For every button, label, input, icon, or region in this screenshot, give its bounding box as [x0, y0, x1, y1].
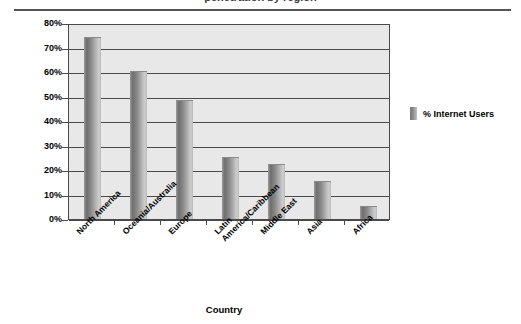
cropped-title-strip: penetration by region	[0, 0, 521, 7]
x-tick-mark	[252, 220, 253, 225]
x-tick-mark	[344, 220, 345, 225]
y-tick-label: 60%	[28, 68, 62, 77]
y-tick-label: 30%	[28, 142, 62, 151]
bar	[84, 37, 101, 219]
legend-label-internet-users: % Internet Users	[423, 109, 494, 119]
y-tick-mark	[62, 220, 68, 221]
y-tick-mark	[62, 171, 68, 172]
y-tick-label: 50%	[28, 93, 62, 102]
header-divider	[14, 9, 511, 11]
y-tick-mark	[62, 147, 68, 148]
x-tick-mark	[114, 220, 115, 225]
y-tick-label: 0%	[28, 215, 62, 224]
y-tick-label: 80%	[28, 19, 62, 28]
legend-swatch-internet-users	[410, 107, 417, 120]
y-tick-mark	[62, 24, 68, 25]
x-axis-title: Country	[0, 304, 448, 315]
chart-title-cropped: penetration by region	[0, 0, 521, 3]
y-tick-mark	[62, 196, 68, 197]
y-tick-mark	[62, 73, 68, 74]
x-tick-mark	[298, 220, 299, 225]
chart-figure: penetration by region Global Internet Pe…	[0, 0, 521, 324]
y-tick-mark	[62, 49, 68, 50]
y-tick-mark	[62, 122, 68, 123]
bar	[130, 71, 147, 219]
legend: % Internet Users	[410, 107, 494, 120]
bar	[176, 100, 193, 219]
y-tick-label: 20%	[28, 166, 62, 175]
x-tick-mark	[206, 220, 207, 225]
bar	[314, 181, 331, 219]
y-tick-label: 10%	[28, 191, 62, 200]
x-tick-mark	[160, 220, 161, 225]
y-axis-tick-labels: 0%10%20%30%40%50%60%70%80%	[26, 0, 62, 324]
y-tick-label: 40%	[28, 117, 62, 126]
y-tick-label: 70%	[28, 44, 62, 53]
y-tick-mark	[62, 98, 68, 99]
